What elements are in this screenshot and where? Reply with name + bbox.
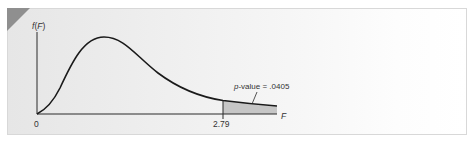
- p-value-shaded-area: [223, 101, 277, 115]
- x-tick-label-zero: 0: [34, 119, 39, 129]
- x-axis-label: F: [281, 111, 287, 121]
- p-value-leader-line: [252, 92, 257, 104]
- density-curve: [37, 37, 277, 114]
- x-tick-label-critical: 2.79: [213, 119, 230, 129]
- p-value-rest: -value = .0405: [238, 82, 289, 91]
- y-axis-label: f(F): [32, 21, 45, 31]
- p-value-annotation: p-value = .0405: [233, 82, 290, 91]
- f-distribution-chart: f(F) 0 2.79 F p-value = .0405: [0, 0, 472, 142]
